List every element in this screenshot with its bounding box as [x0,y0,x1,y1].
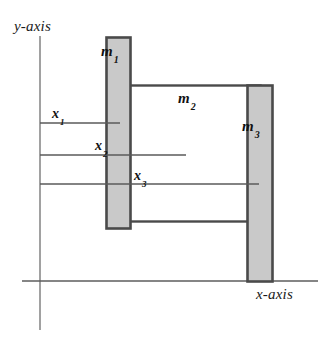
mass-label-m1-base: m [101,43,113,59]
coordinate-label-x1-base: x [52,106,59,121]
mass-label-m2-subscript: 2 [191,101,196,112]
coordinate-label-x2-base: x [95,138,102,153]
mass-label-m1: m1 [101,43,118,62]
mechanical-system-diagram: y-axis x-axis m1 m2 m3 x1 x2 x3 [0,0,335,340]
mass-m1-body [107,38,131,229]
mass-label-m3: m3 [242,118,259,137]
coordinate-label-x2-subscript: 2 [103,149,108,159]
coordinate-label-x1-subscript: 1 [60,117,65,127]
y-axis-label: y-axis [14,18,51,35]
coordinate-label-x3: x3 [134,168,146,186]
mass-label-m2-base: m [178,90,190,106]
coordinate-label-x2: x2 [95,138,107,156]
mass-label-m3-subscript: 3 [255,129,260,140]
mass-label-m1-subscript: 1 [114,54,119,65]
coordinate-label-x3-subscript: 3 [142,179,147,189]
coordinate-label-x3-base: x [134,168,141,183]
x-axis-label: x-axis [256,286,293,303]
coordinate-label-x1: x1 [52,106,64,124]
mass-label-m3-base: m [242,118,254,134]
mass-label-m2: m2 [178,90,195,109]
